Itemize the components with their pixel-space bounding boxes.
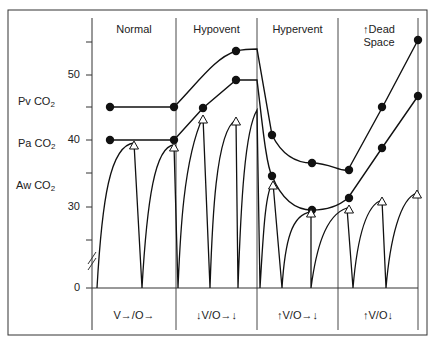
data-point-marker xyxy=(232,76,240,84)
data-point-marker xyxy=(199,104,207,112)
data-point-marker xyxy=(268,172,276,180)
data-point-marker xyxy=(232,47,240,55)
label-pa-co2: Pa CO2 xyxy=(18,137,55,151)
region-title-normal: Normal xyxy=(92,23,176,36)
pv-co2-line xyxy=(110,40,418,170)
triangle-marker-icon xyxy=(130,141,139,149)
region-footer-hypervent: ↑V/O→↓ xyxy=(257,309,338,321)
ytick-30: 30 xyxy=(56,200,80,212)
region-footer-normal: V→/O→ xyxy=(92,309,176,321)
data-point-marker xyxy=(106,136,114,144)
data-point-marker xyxy=(308,159,316,167)
ytick-40: 40 xyxy=(56,133,80,145)
region-title-dead-line2: Space xyxy=(340,36,418,49)
y-ticks xyxy=(86,42,92,240)
data-point-marker xyxy=(170,103,178,111)
data-point-marker xyxy=(345,194,353,202)
region-footer-hypovent: ↓V/O→↓ xyxy=(176,309,257,321)
data-point-marker xyxy=(378,144,386,152)
triangle-marker-icon xyxy=(170,143,179,151)
data-point-marker xyxy=(268,131,276,139)
region-title-hypovent: Hypovent xyxy=(176,23,257,36)
data-point-marker xyxy=(106,103,114,111)
region-title-hypervent: Hypervent xyxy=(257,23,338,36)
triangle-marker-icon xyxy=(199,115,208,123)
region-title-dead-space: ↑Dead Space xyxy=(340,23,418,49)
label-pv-co2: Pv CO2 xyxy=(18,95,55,109)
ytick-0: 0 xyxy=(56,281,80,293)
ytick-50: 50 xyxy=(56,68,80,80)
data-point-marker xyxy=(378,103,386,111)
triangle-marker-icon xyxy=(232,117,241,125)
label-aw-co2: Aw CO2 xyxy=(16,179,55,193)
data-point-marker xyxy=(414,92,422,100)
pa-co2-markers xyxy=(106,76,422,214)
pv-co2-markers xyxy=(106,36,422,174)
data-point-marker xyxy=(345,166,353,174)
region-footer-dead-space: ↑V/O↓ xyxy=(338,309,418,321)
region-title-dead-line1: ↑Dead xyxy=(340,23,418,36)
pa-co2-line xyxy=(110,80,418,210)
